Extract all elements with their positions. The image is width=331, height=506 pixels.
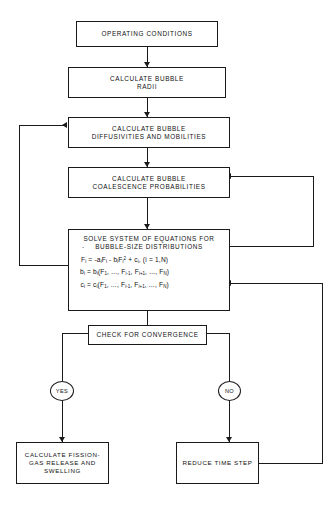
node-yes-branch[interactable]: YES xyxy=(50,381,74,401)
solve-system-line1: SOLVE SYSTEM OF EQUATIONS FOR xyxy=(76,235,222,243)
eq3-mid1: , ..., F xyxy=(107,281,125,288)
eq3-mid3: , ..., F xyxy=(145,281,163,288)
node-calculate-bubble-diffusivities[interactable]: CALCULATE BUBBLE DIFFUSIVITIES AND MOBIL… xyxy=(68,117,230,148)
node-no-branch[interactable]: NO xyxy=(218,381,241,401)
edge-yes-to-release xyxy=(62,400,63,442)
equation-3: ci = ci(F1, ..., Fi-1, Fi+1, ..., FN) xyxy=(80,281,169,289)
calc-radii-line1: CALCULATE BUBBLE xyxy=(110,75,184,83)
edge-feedback-outer-riser xyxy=(322,283,323,464)
calc-diffusivities-line1: CALCULATE BUBBLE xyxy=(112,125,186,133)
eq2-eq: = xyxy=(87,268,91,275)
arrow-feedback-left-into-diffusivities xyxy=(62,122,67,128)
eq3-close: ) xyxy=(166,281,168,288)
eq1-eq: = xyxy=(88,256,92,263)
solve-system-line2: BUBBLE-SIZE DISTRIBUTIONS xyxy=(76,243,222,251)
edge-check-to-no-vertical xyxy=(229,333,230,381)
eq2-mid3: , ..., F xyxy=(145,268,163,275)
edge-check-to-yes-vertical xyxy=(62,333,63,381)
edge-check-to-no-horizontal xyxy=(207,333,230,334)
check-convergence-label: CHECK FOR CONVERGENCE xyxy=(96,331,198,339)
edge-feedback-left-riser xyxy=(19,125,20,266)
eq1-tail: , (i = 1,N) xyxy=(139,256,169,263)
edge-feedback-inner-bottom xyxy=(228,246,314,247)
eq2-lhs-sub: i xyxy=(84,272,85,277)
eq1-term1-var-sub: i xyxy=(106,259,107,264)
solve-system-heading: SOLVE SYSTEM OF EQUATIONS FOR BUBBLE-SIZ… xyxy=(76,235,222,252)
eq1-lhs-sub: i xyxy=(85,259,86,264)
edge-feedback-outer-bottom xyxy=(258,463,323,464)
eq2-mid2: , F xyxy=(131,268,139,275)
no-branch-label: NO xyxy=(225,388,234,394)
solve-system-equations: Fi = -aiFi - biFi2 + ci, (i = 1,N) bi = … xyxy=(76,256,169,290)
calc-diffusivities-line2: DIFFUSIVITIES AND MOBILITIES xyxy=(92,133,206,141)
node-solve-system-of-equations[interactable]: SOLVE SYSTEM OF EQUATIONS FOR BUBBLE-SIZ… xyxy=(68,229,230,311)
eq3-lhs-sub: i xyxy=(84,284,85,289)
edge-feedback-inner-riser xyxy=(313,176,314,247)
reduce-time-step-label: REDUCE TIME STEP xyxy=(183,459,253,467)
eq3-eq: = xyxy=(87,281,91,288)
eq1-term2-sup: 2 xyxy=(124,256,127,261)
operating-conditions-label: OPERATING CONDITIONS xyxy=(101,30,192,38)
eq3-mid2: , F xyxy=(130,281,138,288)
node-calculate-bubble-coalescence[interactable]: CALCULATE BUBBLE COALESCENCE PROBABILITI… xyxy=(68,167,230,198)
eq1-plus: + xyxy=(128,256,132,263)
calc-release-line1: CALCULATE FISSION- xyxy=(25,451,100,459)
equation-1: Fi = -aiFi - biFi2 + ci, (i = 1,N) xyxy=(80,256,169,264)
eq2-close: ) xyxy=(167,268,169,275)
node-calculate-bubble-radii[interactable]: CALCULATE BUBBLE RADII xyxy=(68,67,226,98)
calc-coalescence-line2: COALESCENCE PROBABILITIES xyxy=(92,183,205,191)
edge-feedback-left-top xyxy=(19,125,66,126)
edge-feedback-left-bottom xyxy=(19,265,68,266)
eq2-mid1: , ..., F xyxy=(107,268,125,275)
node-operating-conditions[interactable]: OPERATING CONDITIONS xyxy=(76,21,218,47)
node-reduce-time-step[interactable]: REDUCE TIME STEP xyxy=(176,442,259,484)
calc-coalescence-line1: CALCULATE BUBBLE xyxy=(112,175,186,183)
eq2-open: (F xyxy=(98,268,105,275)
equation-2: bi = bi(F1, ..., Fi-1, Fi+1, ..., FN) xyxy=(80,268,169,276)
yes-branch-label: YES xyxy=(56,388,68,394)
eq1-minus: - xyxy=(109,256,111,263)
node-calculate-fission-gas-release[interactable]: CALCULATE FISSION- GAS RELEASE AND SWELL… xyxy=(16,442,109,484)
edge-no-to-reduce xyxy=(229,400,230,442)
edge-feedback-outer-top xyxy=(230,283,323,284)
calc-release-line2: GAS RELEASE AND xyxy=(29,459,96,467)
calc-release-line3: SWELLING xyxy=(44,467,81,475)
edge-check-to-yes-horizontal xyxy=(62,333,88,334)
flowchart-canvas: OPERATING CONDITIONS CALCULATE BUBBLE RA… xyxy=(0,0,331,506)
eq1-lhs-var: F xyxy=(81,256,85,263)
edge-feedback-inner-top xyxy=(230,176,314,177)
node-check-for-convergence[interactable]: CHECK FOR CONVERGENCE xyxy=(88,325,207,345)
calc-radii-line2: RADII xyxy=(137,83,157,91)
